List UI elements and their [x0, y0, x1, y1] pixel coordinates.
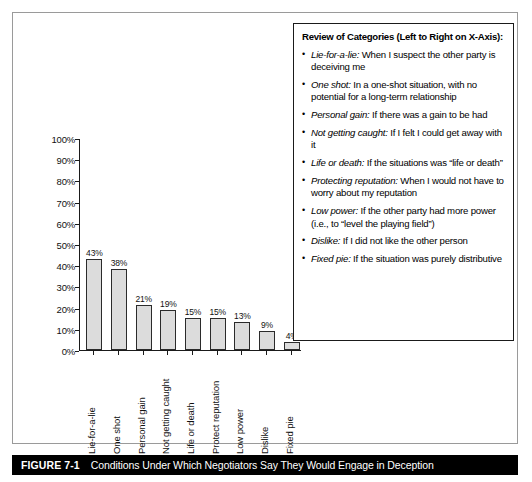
bar-item: 43%: [86, 245, 102, 350]
y-axis-labels: 0%10%20%30%40%50%60%70%80%90%100%: [33, 139, 75, 351]
review-item-text: Lie-for-a-lie: When I suspect the other …: [311, 49, 505, 74]
bar-item: 38%: [111, 255, 127, 350]
bar-item: 15%: [210, 304, 226, 350]
x-axis-category-label: Life or death: [185, 359, 201, 443]
bullet-icon: •: [302, 127, 311, 152]
review-item-term: One shot:: [311, 79, 351, 90]
x-axis-category-text: One shot: [111, 416, 122, 454]
y-axis-tick-label: 90%: [57, 155, 75, 166]
bar: [136, 305, 152, 350]
bullet-icon: •: [302, 157, 311, 170]
y-axis-tick: [75, 181, 79, 182]
review-item-text: Life or death: If the situations was “li…: [311, 157, 505, 170]
x-axis-category-label: Not getting caught: [160, 359, 176, 443]
x-axis-line: [79, 350, 301, 351]
review-item-description: If the situation was purely distributive: [351, 253, 502, 264]
review-list-item: •Dislike: If I did not like the other pe…: [302, 235, 505, 248]
x-axis-category-text: Fixed pie: [284, 416, 295, 454]
y-axis-tick: [75, 330, 79, 331]
bar-value-label: 13%: [234, 311, 250, 321]
x-axis-category-label: Lie-for-a-lie: [86, 359, 102, 443]
x-axis-category-text: Low power: [234, 409, 245, 454]
review-item-term: Life or death:: [311, 157, 364, 168]
review-box-title: Review of Categories (Left to Right on X…: [302, 31, 505, 43]
bar-item: 13%: [234, 308, 250, 350]
bar-value-label: 21%: [135, 294, 151, 304]
review-item-text: Not getting caught: If I felt I could ge…: [311, 127, 505, 152]
y-axis-tick: [75, 139, 79, 140]
bullet-icon: •: [302, 175, 311, 200]
bullet-icon: •: [302, 235, 311, 248]
y-axis-tick: [75, 245, 79, 246]
bar: [160, 310, 176, 350]
bar-item: 21%: [136, 291, 152, 350]
bar: [86, 259, 102, 350]
bullet-icon: •: [302, 79, 311, 104]
x-axis-category-text: Protect reputation: [210, 381, 221, 454]
review-item-text: Low power: If the other party had more p…: [311, 205, 505, 230]
review-item-description: If I did not like the other person: [340, 235, 467, 246]
x-axis-category-label: Low power: [234, 359, 250, 443]
review-item-term: Protecting reputation:: [311, 175, 398, 186]
bar: [234, 322, 250, 350]
bullet-icon: •: [302, 205, 311, 230]
review-item-term: Fixed pie:: [311, 253, 351, 264]
x-axis-category-label: One shot: [111, 359, 127, 443]
review-list-item: •Fixed pie: If the situation was purely …: [302, 253, 505, 266]
y-axis-tick-label: 50%: [57, 240, 75, 251]
review-item-text: Personal gain: If there was a gain to be…: [311, 109, 505, 122]
bar-value-label: 43%: [86, 248, 102, 258]
review-list-item: •Personal gain: If there was a gain to b…: [302, 109, 505, 122]
bar: [284, 342, 300, 350]
x-axis-category-label: Protect reputation: [210, 359, 226, 443]
y-axis-tick-label: 20%: [57, 303, 75, 314]
review-item-term: Dislike:: [311, 235, 340, 246]
bar-item: 15%: [185, 304, 201, 350]
x-axis-category-text: Not getting caught: [160, 379, 171, 454]
bar-value-label: 38%: [111, 258, 127, 268]
bar: [259, 331, 275, 350]
review-item-description: If the situations was “life or death”: [364, 157, 503, 168]
review-item-text: Protecting reputation: When I would not …: [311, 175, 505, 200]
figure-caption-bar: FIGURE 7-1 Conditions Under Which Negoti…: [12, 455, 518, 475]
review-item-text: One shot: In a one-shot situation, with …: [311, 79, 505, 104]
y-axis-tick-label: 30%: [57, 282, 75, 293]
y-axis-tick-label: 0%: [62, 346, 75, 357]
y-axis-tick: [75, 287, 79, 288]
y-axis-tick-label: 70%: [57, 197, 75, 208]
x-axis-category-text: Lie-for-a-lie: [86, 407, 97, 454]
bar-item: 9%: [259, 317, 275, 350]
bullet-icon: •: [302, 109, 311, 122]
y-axis-tick: [75, 224, 79, 225]
review-item-description: If there was a gain to be had: [370, 109, 488, 120]
review-list-item: •Protecting reputation: When I would not…: [302, 175, 505, 200]
x-axis-category-text: Dislike: [259, 427, 270, 454]
y-axis-tick: [75, 351, 79, 352]
review-list-item: •Not getting caught: If I felt I could g…: [302, 127, 505, 152]
y-axis-tick: [75, 160, 79, 161]
review-list-item: •Life or death: If the situations was “l…: [302, 157, 505, 170]
bullet-icon: •: [302, 253, 311, 266]
y-axis-tick-label: 100%: [52, 134, 76, 145]
y-axis-tick-label: 10%: [57, 324, 75, 335]
review-list-item: •Low power: If the other party had more …: [302, 205, 505, 230]
review-item-term: Lie-for-a-lie:: [311, 49, 359, 60]
x-axis-category-text: Personal gain: [136, 397, 147, 454]
bar-series: 43%38%21%19%15%15%13%9%4%: [80, 139, 301, 350]
bar: [185, 318, 201, 350]
figure-number: FIGURE 7-1: [21, 459, 80, 471]
bar-chart: 0%10%20%30%40%50%60%70%80%90%100% 43%38%…: [33, 123, 303, 443]
bar: [210, 318, 226, 350]
review-item-list: •Lie-for-a-lie: When I suspect the other…: [302, 49, 505, 266]
bar: [111, 269, 127, 350]
y-axis-tick-label: 60%: [57, 218, 75, 229]
x-axis-category-label: Fixed pie: [284, 359, 300, 443]
bullet-icon: •: [302, 49, 311, 74]
y-axis-tick-label: 40%: [57, 261, 75, 272]
x-axis-category-label: Dislike: [259, 359, 275, 443]
bar-value-label: 15%: [209, 307, 225, 317]
x-axis-labels: Lie-for-a-lieOne shotPersonal gainNot ge…: [80, 355, 302, 443]
review-item-text: Fixed pie: If the situation was purely d…: [311, 253, 505, 266]
plot-area: 43%38%21%19%15%15%13%9%4%: [79, 139, 301, 351]
bar-item: 19%: [160, 296, 176, 350]
